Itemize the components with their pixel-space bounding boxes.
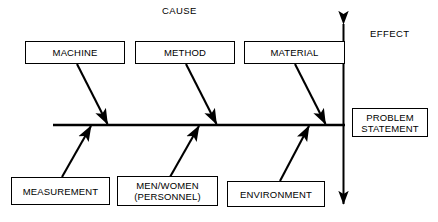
problem-statement-line2: STATEMENT (361, 123, 418, 134)
branch-arrow-environment (280, 126, 309, 181)
cause-box-measurement[interactable]: MEASUREMENT (11, 177, 110, 205)
cause-box-method[interactable]: METHOD (135, 41, 235, 64)
fishbone-diagram: CAUSE EFFECT MACHINE METHOD MATERIAL MEA… (0, 0, 438, 222)
branch-arrow-method (186, 64, 217, 124)
branch-arrow-personnel (170, 126, 199, 177)
cause-box-personnel-line2: (PERSONNEL) (134, 191, 201, 202)
problem-statement-line1: PROBLEM (366, 112, 414, 123)
branch-arrow-machine (77, 64, 108, 124)
effect-section-label: EFFECT (370, 28, 409, 39)
cause-box-environment[interactable]: ENVIRONMENT (227, 181, 325, 207)
branch-arrow-measurement (62, 126, 91, 177)
cause-box-material[interactable]: MATERIAL (244, 41, 345, 64)
cause-box-personnel-line1: MEN/WOMEN (136, 180, 199, 191)
cause-box-machine[interactable]: MACHINE (25, 41, 125, 64)
branch-arrow-material (295, 64, 326, 124)
cause-box-personnel[interactable]: MEN/WOMEN (PERSONNEL) (117, 176, 218, 206)
problem-statement-box[interactable]: PROBLEM STATEMENT (352, 108, 428, 137)
cause-section-label: CAUSE (162, 5, 197, 16)
